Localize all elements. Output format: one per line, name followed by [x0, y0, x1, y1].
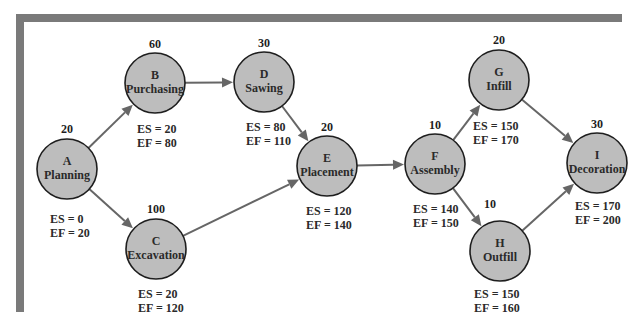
duration-label: 60: [149, 37, 161, 51]
node-id: D: [260, 67, 269, 81]
edge-c-to-e: [183, 180, 299, 236]
network-diagram: APlanning20ES = 0EF = 20BPurchasing60ES …: [0, 0, 635, 325]
early-start-label: ES = 150: [473, 119, 519, 133]
duration-label: 20: [61, 122, 73, 136]
edge-line: [88, 112, 125, 148]
node-g-infill: GInfill20ES = 150EF = 170: [469, 33, 529, 147]
early-finish-label: EF = 110: [246, 134, 291, 148]
arrowhead-icon: [470, 105, 481, 117]
arrowhead-icon: [471, 214, 482, 226]
early-start-label: ES = 170: [575, 199, 621, 213]
node-id: C: [152, 234, 161, 248]
node-id: E: [323, 151, 331, 165]
node-name: Sawing: [245, 81, 282, 95]
nodes-layer: APlanning20ES = 0EF = 20BPurchasing60ES …: [37, 33, 627, 315]
edge-a-to-b: [88, 105, 132, 148]
early-start-label: ES = 0: [50, 212, 84, 226]
edge-line: [453, 113, 473, 140]
duration-label: 30: [591, 117, 603, 131]
node-i-decoration: IDecoration30ES = 170EF = 200: [567, 117, 627, 227]
early-finish-label: EF = 20: [50, 226, 90, 240]
node-name: Decoration: [569, 162, 626, 176]
early-start-label: ES = 80: [246, 120, 286, 134]
early-start-label: ES = 20: [137, 122, 177, 136]
node-id: F: [431, 149, 438, 163]
arrowhead-icon: [393, 160, 404, 170]
node-a-planning: APlanning20ES = 0EF = 20: [37, 122, 97, 240]
node-b-purchasing: BPurchasing60ES = 20EF = 80: [125, 37, 185, 150]
duration-label: 10: [484, 197, 496, 211]
early-finish-label: EF = 160: [474, 301, 520, 315]
early-start-label: ES = 120: [306, 204, 352, 218]
edge-a-to-c: [89, 189, 133, 228]
edge-b-to-d: [185, 77, 233, 87]
node-name: Planning: [44, 168, 90, 182]
early-finish-label: EF = 140: [306, 218, 352, 232]
edge-line: [522, 191, 566, 231]
early-start-label: ES = 20: [138, 287, 178, 301]
node-id: G: [494, 65, 503, 79]
node-name: Purchasing: [126, 82, 184, 96]
node-id: B: [151, 68, 159, 82]
node-c-excavation: CExcavation100ES = 20EF = 120: [126, 202, 186, 315]
edge-e-to-f: [357, 160, 404, 170]
node-name: Assembly: [410, 163, 459, 177]
duration-label: 100: [147, 202, 165, 216]
early-finish-label: EF = 120: [138, 301, 184, 315]
early-finish-label: EF = 80: [137, 136, 177, 150]
arrowhead-icon: [222, 77, 233, 87]
duration-label: 20: [321, 120, 333, 134]
node-id: A: [63, 154, 72, 168]
arrowhead-icon: [298, 129, 309, 141]
duration-label: 30: [258, 36, 270, 50]
edge-h-to-i: [522, 184, 574, 231]
early-finish-label: EF = 170: [473, 133, 519, 147]
edge-line: [522, 99, 565, 135]
duration-label: 20: [493, 33, 505, 47]
node-name: Excavation: [127, 248, 185, 262]
node-h-outfill: HOutfill10ES = 150EF = 160: [470, 197, 530, 315]
node-id: H: [495, 236, 505, 250]
early-start-label: ES = 150: [474, 287, 520, 301]
edge-line: [183, 184, 289, 236]
node-name: Outfill: [483, 250, 518, 264]
edge-line: [357, 165, 393, 166]
early-start-label: ES = 140: [413, 202, 459, 216]
early-finish-label: EF = 150: [413, 216, 459, 230]
node-name: Infill: [486, 79, 512, 93]
edge-g-to-i: [522, 99, 573, 143]
node-id: I: [595, 148, 600, 162]
duration-label: 10: [429, 118, 441, 132]
early-finish-label: EF = 200: [575, 213, 621, 227]
edge-line: [89, 189, 124, 221]
node-name: Placement: [300, 165, 353, 179]
node-d-sawing: DSawing30ES = 80EF = 110: [234, 36, 294, 148]
